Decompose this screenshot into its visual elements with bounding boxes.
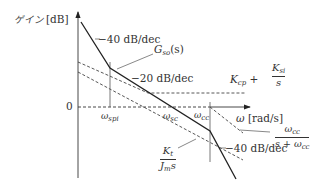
pi-controller-label-kcp: Kcp + bbox=[230, 74, 258, 87]
y-axis-label: ゲイン[dB] bbox=[14, 14, 69, 25]
y-axis-label-unit: [dB] bbox=[46, 13, 69, 25]
wcc-num-sub: cc bbox=[292, 128, 300, 136]
pi-controller-fraction: Ksi s bbox=[272, 63, 285, 88]
x-axis-unit: [rad/s] bbox=[248, 112, 283, 124]
omega-sc-sub: sc bbox=[170, 115, 178, 123]
x-axis-symbol: ω bbox=[236, 112, 245, 124]
kcp-sub: cp bbox=[238, 79, 246, 87]
kt-leader bbox=[178, 139, 196, 148]
kt-sub: t bbox=[170, 150, 173, 158]
plant-fraction: Kt Jms bbox=[160, 146, 176, 173]
plus-sign: + bbox=[250, 73, 259, 85]
slope-label-second: −20 dB/dec bbox=[131, 73, 193, 84]
y-axis-label-jp: ゲイン bbox=[14, 14, 44, 25]
open-loop-label: Gso(s) bbox=[154, 44, 184, 57]
x-axis-label: ω [rad/s] bbox=[236, 113, 283, 124]
zero-db-label: 0 bbox=[66, 101, 73, 112]
omega-sc-label: ωsc bbox=[163, 112, 178, 123]
jm-sub: m bbox=[164, 165, 171, 173]
cc-leader bbox=[240, 130, 270, 132]
current-loop-fraction: ωcc s + ωcc bbox=[275, 124, 309, 151]
gso-arg: (s) bbox=[170, 43, 184, 55]
omega-cc-label: ωcc bbox=[194, 111, 209, 122]
ksi-sub: si bbox=[279, 67, 285, 75]
gso-leader bbox=[117, 54, 153, 69]
omega-cc-sub: cc bbox=[201, 114, 209, 122]
omega-spi-label: ωspi bbox=[101, 112, 119, 123]
wcc-den-main: ω bbox=[294, 138, 302, 149]
omega-spi-sub: spi bbox=[108, 115, 118, 123]
slope-label-first: −40 dB/dec bbox=[98, 34, 160, 45]
ksi-den: s bbox=[276, 78, 281, 88]
kcp-main: K bbox=[230, 73, 238, 85]
wcc-den-s: s + bbox=[275, 138, 294, 149]
jm-s: s bbox=[171, 160, 176, 171]
wcc-den-sub: cc bbox=[302, 143, 310, 151]
